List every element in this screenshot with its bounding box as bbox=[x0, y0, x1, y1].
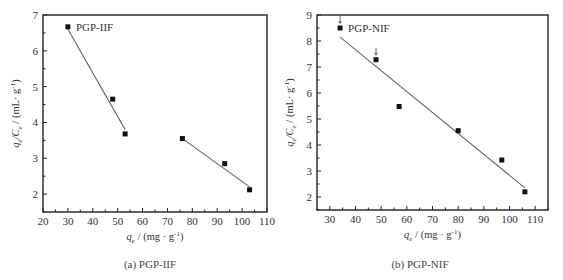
x-tick-label: 50 bbox=[112, 215, 124, 227]
data-point bbox=[338, 26, 343, 31]
x-tick-label: 110 bbox=[259, 215, 276, 227]
y-tick-label: 7 bbox=[307, 61, 313, 73]
x-tick-label: 90 bbox=[212, 215, 224, 227]
x-axis-label: qe / (mg · g-1) bbox=[127, 230, 184, 245]
x-tick-label: 80 bbox=[453, 213, 465, 225]
y-tick-label: 7 bbox=[33, 9, 39, 21]
x-tick-label: 50 bbox=[376, 213, 388, 225]
caption-a: (a) PGP-IIF bbox=[70, 258, 230, 270]
series-annotation: PGP-IIF bbox=[76, 21, 113, 33]
x-tick-label: 70 bbox=[162, 215, 174, 227]
x-axis-label: qe / (mg · g-1) bbox=[404, 228, 461, 243]
x-tick-label: 80 bbox=[187, 215, 199, 227]
data-point bbox=[123, 131, 128, 136]
y-tick-label: 9 bbox=[307, 9, 313, 21]
caption-b: (b) PGP-NIF bbox=[340, 258, 500, 270]
y-tick-label: 2 bbox=[33, 188, 39, 200]
chart-panel-b: 3040506070809010011023456789qe / (mg · g… bbox=[280, 0, 563, 280]
y-tick-label: 4 bbox=[33, 116, 39, 128]
x-tick-label: 30 bbox=[324, 213, 336, 225]
x-tick-label: 30 bbox=[62, 215, 74, 227]
y-tick-label: 8 bbox=[307, 35, 313, 47]
data-point bbox=[397, 104, 402, 109]
y-tick-label: 5 bbox=[307, 113, 313, 125]
x-tick-label: 90 bbox=[478, 213, 490, 225]
series-annotation: PGP-NIF bbox=[348, 22, 390, 34]
y-tick-label: 5 bbox=[33, 81, 39, 93]
x-tick-label: 20 bbox=[38, 215, 50, 227]
fit-line bbox=[68, 29, 125, 129]
y-axis-label: qe/Ce / (mL· g-1) bbox=[283, 78, 298, 147]
data-point bbox=[499, 158, 504, 163]
x-tick-label: 100 bbox=[234, 215, 251, 227]
y-axis-label: qe/Ce / (mL· g-1) bbox=[9, 79, 24, 148]
y-tick-label: 4 bbox=[307, 139, 313, 151]
data-point bbox=[110, 97, 115, 102]
y-tick-label: 2 bbox=[307, 191, 313, 203]
fit-line bbox=[340, 37, 525, 188]
data-point bbox=[522, 189, 527, 194]
fit-line bbox=[182, 139, 249, 187]
x-tick-label: 60 bbox=[137, 215, 149, 227]
data-point bbox=[247, 187, 252, 192]
x-tick-label: 40 bbox=[87, 215, 99, 227]
y-tick-label: 6 bbox=[307, 87, 313, 99]
x-tick-label: 60 bbox=[401, 213, 413, 225]
y-tick-label: 3 bbox=[307, 165, 313, 177]
x-tick-label: 110 bbox=[527, 213, 544, 225]
chart-panel-a: 2030405060708090100110234567qe / (mg · g… bbox=[0, 0, 280, 280]
x-tick-label: 70 bbox=[427, 213, 439, 225]
data-point bbox=[456, 128, 461, 133]
data-point bbox=[65, 24, 70, 29]
scatter-plot-a: 2030405060708090100110234567qe / (mg · g… bbox=[0, 0, 280, 280]
x-tick-label: 40 bbox=[350, 213, 362, 225]
scatter-plot-b: 3040506070809010011023456789qe / (mg · g… bbox=[280, 0, 563, 280]
data-point bbox=[374, 57, 379, 62]
x-tick-label: 100 bbox=[501, 213, 518, 225]
y-tick-label: 6 bbox=[33, 45, 39, 57]
y-tick-label: 3 bbox=[33, 152, 39, 164]
data-point bbox=[222, 161, 227, 166]
data-point bbox=[180, 136, 185, 141]
